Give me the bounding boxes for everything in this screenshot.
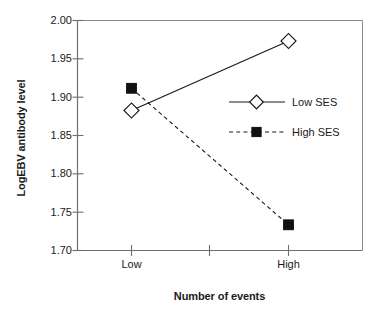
y-tick-label-2-00: 2.00	[36, 15, 72, 26]
legend-sample-high-ses	[228, 123, 286, 141]
legend-sample-low-ses	[228, 93, 286, 111]
chart-figure: 1.70 1.75 1.80 1.85 1.90 1.95 2.00 Low H…	[0, 0, 376, 315]
x-axis-title: Number of events	[77, 290, 362, 302]
y-tick-label-1-80: 1.80	[36, 168, 72, 179]
y-tick-label-1-85: 1.85	[36, 130, 72, 141]
x-tick-label-low: Low	[102, 259, 162, 270]
y-tick-label-1-90: 1.90	[36, 92, 72, 103]
x-axis-tick-labels: Low High	[0, 259, 376, 279]
y-tick-label-1-75: 1.75	[36, 207, 72, 218]
series-low-ses-marker-high	[281, 34, 296, 49]
legend-label-high-ses: High SES	[292, 125, 340, 139]
chart-legend: Low SES High SES	[228, 93, 354, 153]
series-high-ses-marker-high	[284, 220, 294, 230]
legend-item-low-ses: Low SES	[228, 93, 354, 123]
y-tick-label-1-70: 1.70	[36, 245, 72, 256]
legend-label-low-ses: Low SES	[292, 95, 337, 109]
series-high-ses-marker-low	[127, 83, 137, 93]
x-tick-label-high: High	[259, 259, 319, 270]
series-low-ses-marker-low	[124, 103, 139, 118]
y-tick-label-1-95: 1.95	[36, 53, 72, 64]
legend-item-high-ses: High SES	[228, 123, 354, 153]
y-axis-title: LogEBV antibody level	[13, 38, 29, 238]
